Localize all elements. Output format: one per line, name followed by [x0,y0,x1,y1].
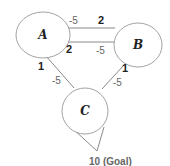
goal-label: 10 (Goal) [89,156,132,166]
node-a: A [16,12,70,58]
state-diagram: A B C -5 2 2 -5 1 -5 1 -5 10 (Goal) [0,0,170,166]
edge-c-to-goal-right [97,127,104,151]
weight-ab-bottom-neg: -5 [96,45,105,56]
node-b: B [114,23,162,67]
weight-ab-bottom-pos: 2 [66,43,72,55]
weight-ac-neg: -5 [52,75,61,86]
node-a-label: A [37,28,47,42]
weight-bc-pos: 1 [122,62,128,74]
weight-ab-top-neg: -5 [69,15,78,26]
node-c-label: C [80,104,90,118]
node-c: C [62,88,108,134]
weight-bc-neg: -5 [113,77,122,88]
weight-ab-top-pos: 2 [98,14,104,26]
node-b-label: B [132,38,143,52]
weight-ac-pos: 1 [38,60,44,72]
